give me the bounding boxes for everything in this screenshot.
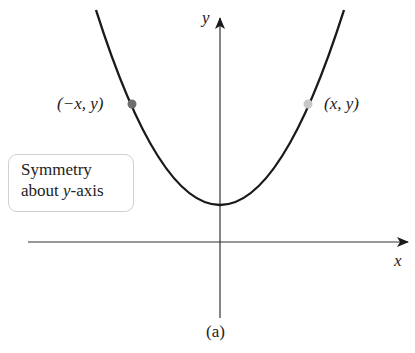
figure-caption: (a): [206, 323, 225, 340]
point-left-label: (−x, y): [57, 95, 103, 112]
y-axis-label: y: [202, 9, 210, 26]
point-right: [304, 100, 313, 109]
x-axis-label: x: [394, 252, 402, 269]
symmetry-note-box: Symmetry about y-axis: [8, 154, 134, 212]
note-line-1: Symmetry: [21, 159, 133, 180]
point-right-label: (x, y): [324, 95, 359, 112]
note-line-2: about y-axis: [21, 180, 133, 201]
note-var: y: [63, 181, 71, 200]
point-left: [128, 100, 137, 109]
note-suffix: -axis: [71, 181, 104, 200]
note-prefix: about: [21, 181, 63, 200]
